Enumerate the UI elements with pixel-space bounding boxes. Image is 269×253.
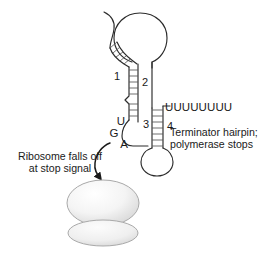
terminator-annotation-line1: Terminator hairpin; xyxy=(170,126,258,138)
segment-1-label: 1 xyxy=(114,70,120,82)
ribosome-annotation-line1: Ribosome falls off xyxy=(18,150,102,162)
diagram-canvas: 1 2 3 4 U G A UUUUUUUU Terminator hairpi… xyxy=(0,0,269,253)
ribosome-large-subunit xyxy=(67,180,139,226)
ribosome-annotation-line2: at stop signal xyxy=(29,162,91,174)
segment1-segment2-stem xyxy=(125,64,138,122)
stop-codon-u-label: U xyxy=(117,115,125,127)
stop-codon-g-label: G xyxy=(110,127,119,139)
terminator-hairpin xyxy=(141,106,173,176)
rna-five-prime-tail xyxy=(104,12,114,48)
terminator-annotation-line2: polymerase stops xyxy=(170,138,253,150)
segment-3-label: 3 xyxy=(143,118,149,130)
segment1-diagonal-duplex xyxy=(110,42,137,67)
ribosome xyxy=(67,180,139,246)
ribosome-small-subunit xyxy=(68,220,138,246)
rna-attenuation-figure: 1 2 3 4 U G A UUUUUUUU Terminator hairpi… xyxy=(0,0,269,253)
poly-u-tail-label: UUUUUUUU xyxy=(165,101,232,113)
segment-2-label: 2 xyxy=(142,76,148,88)
stop-codon-a-label: A xyxy=(120,138,128,150)
